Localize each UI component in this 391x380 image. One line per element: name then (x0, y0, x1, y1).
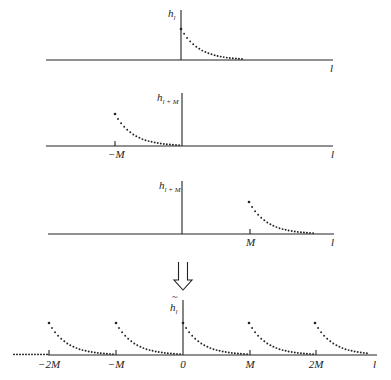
x-axis-ticks: −2M−M0M2M (38, 350, 324, 370)
y-axis-label: hl (170, 301, 178, 316)
decaying-sequence-dots (180, 28, 243, 60)
tick-label-m: M (245, 236, 256, 248)
y-axis-label: hl (168, 7, 176, 22)
x-axis-label: l (373, 358, 376, 370)
x-axis-label: l (331, 236, 334, 248)
periodic-extension-diagram: hl l hl + M −M l hl + M M l −2M−M0M2M ~ … (0, 0, 391, 380)
x-axis-label: l (331, 148, 334, 160)
tick-label-minus-m: −M (108, 148, 125, 160)
decaying-sequence-dots (248, 201, 314, 234)
tick-label: 0 (180, 358, 186, 370)
panel-shifted-left: hl + M −M l (46, 91, 334, 160)
panel-original-sequence: hl l (46, 7, 333, 74)
tick-label: 2M (309, 358, 325, 370)
y-axis-label: hl + M (159, 179, 182, 194)
x-axis-label: l (330, 62, 333, 74)
decaying-sequence-dots (114, 113, 180, 146)
panel-shifted-right: hl + M M l (48, 179, 334, 248)
tick-label: −2M (38, 358, 61, 370)
double-down-arrow-icon (174, 262, 192, 290)
periodic-sequence-dots (13, 322, 368, 356)
tick-label: −M (108, 358, 125, 370)
panel-periodic-extension: −2M−M0M2M ~ hl l (13, 291, 377, 370)
y-axis-label: hl + M (157, 91, 180, 106)
tick-label: M (244, 358, 255, 370)
